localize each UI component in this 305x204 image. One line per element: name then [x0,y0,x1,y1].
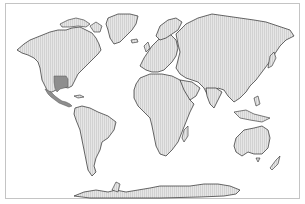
world-map [0,0,305,204]
arctic-islands [60,18,90,27]
iceland [131,39,138,43]
new-zealand [270,156,280,170]
tasmania [256,158,260,162]
world-map-svg [0,0,305,204]
australia [234,126,270,156]
southeast-asia-islands [234,110,270,122]
antarctica [74,184,240,198]
europe [140,34,178,72]
highlight-mexico-central-america [45,89,72,107]
caribbean-islands [74,95,84,98]
south-america [74,106,116,176]
highlight-us-plains [54,76,68,92]
philippines [254,96,260,106]
india [206,88,222,108]
baffin-island [90,22,102,32]
